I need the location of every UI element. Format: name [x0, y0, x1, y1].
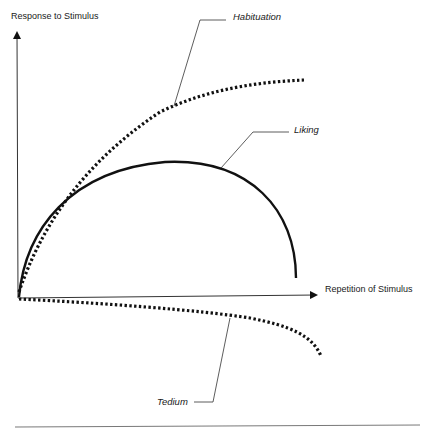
x-axis — [18, 295, 316, 298]
y-axis-label: Response to Stimulus — [11, 11, 99, 21]
habituation-label: Habituation — [233, 11, 281, 22]
liking-leader-line — [221, 132, 289, 168]
habituation-curve — [19, 80, 304, 292]
tedium-label: Tedium — [157, 396, 188, 407]
tedium-leader-line — [194, 318, 230, 402]
liking-label: Liking — [294, 124, 320, 135]
habituation-leader-line — [174, 20, 226, 106]
bottom-rule — [15, 425, 420, 427]
diagram-canvas: Response to Stimulus Repetition of Stimu… — [0, 0, 424, 430]
x-axis-label: Repetition of Stimulus — [325, 284, 413, 294]
tedium-curve — [19, 299, 321, 356]
liking-curve — [19, 162, 296, 297]
y-axis — [17, 33, 18, 298]
